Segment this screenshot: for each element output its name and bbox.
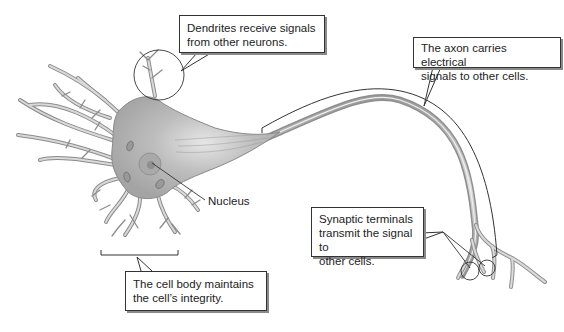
cell-body-callout-line2: the cell’s integrity. [133, 291, 259, 305]
nucleus-label: Nucleus [208, 195, 250, 207]
axon-callout: The axon carries electrical signals to o… [413, 37, 561, 68]
dendrites-callout-line2: from other neurons. [187, 35, 317, 49]
cell-body-callout: The cell body maintains the cell’s integ… [125, 271, 267, 311]
cell-body-callout-line1: The cell body maintains [133, 277, 259, 291]
synaptic-callout-line3: other cells. [319, 254, 416, 268]
synaptic-callout-line2: transmit the signal to [319, 226, 416, 254]
dendrites-callout: Dendrites receive signals from other neu… [179, 15, 325, 53]
axon-callout-line2: signals to other cells. [421, 69, 553, 83]
dendrites-callout-line1: Dendrites receive signals [187, 21, 317, 35]
cell-body [112, 97, 280, 199]
synaptic-callout-line1: Synaptic terminals [319, 212, 416, 226]
axon-callout-line1: The axon carries electrical [421, 41, 553, 69]
synaptic-callout: Synaptic terminals transmit the signal t… [311, 207, 424, 257]
dendrite-highlight-circle [134, 50, 184, 100]
cell-body-bracket [101, 250, 178, 255]
